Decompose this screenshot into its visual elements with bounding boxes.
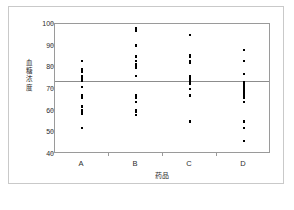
data-point [243,120,246,123]
data-point [189,34,192,37]
data-point [135,60,138,63]
data-point [135,55,138,58]
x-axis-tick-label: A [66,159,96,168]
data-point [81,60,84,63]
y-axis: 405060708090100 [17,23,54,153]
data-point [189,120,192,123]
data-point [135,66,138,69]
data-point [81,113,84,116]
data-point [243,127,246,130]
data-point [243,73,246,76]
data-point [189,94,192,97]
data-point [135,44,138,47]
x-axis-tick-label: C [174,159,204,168]
plot-area [54,23,270,153]
data-point [81,127,84,130]
data-point [189,82,192,85]
x-axis: ABCD [54,153,270,171]
chart-figure: 血糖浓度 405060708090100 ABCD 药品 [8,6,284,184]
data-point [135,29,138,32]
data-point [189,88,192,91]
x-axis-tick-label: B [120,159,150,168]
data-point [135,110,138,113]
reference-line [55,81,269,82]
data-point [243,60,246,63]
x-axis-tick-mark [162,153,163,156]
data-point [135,96,138,99]
data-point [189,55,192,58]
x-axis-label: 药品 [54,170,270,180]
x-axis-tick-label: D [228,159,258,168]
data-point [243,140,246,143]
data-point [189,62,192,65]
data-point [81,79,84,82]
data-point [135,101,138,104]
x-axis-tick-mark [216,153,217,156]
data-point [81,86,84,89]
data-point [81,105,84,108]
x-axis-tick-mark [108,153,109,156]
data-point [135,114,138,117]
data-point [135,75,138,78]
data-point [243,96,246,99]
data-point [81,96,84,99]
data-point [81,70,84,73]
data-point [243,49,246,52]
data-point [243,101,246,104]
